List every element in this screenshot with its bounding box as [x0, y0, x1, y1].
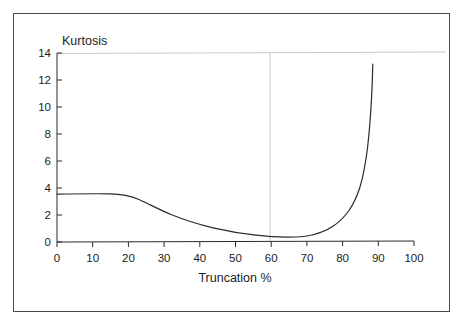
y-tick-label-0: 0 — [45, 236, 51, 248]
x-tick-label-30: 30 — [158, 252, 171, 264]
x-axis-line — [57, 241, 414, 242]
x-tick-label-20: 20 — [122, 252, 135, 264]
y-tick-label-10: 10 — [38, 101, 51, 113]
x-tick-label-80: 80 — [336, 252, 349, 264]
chart-plot: 14 12 10 8 6 4 2 0 0 10 20 30 40 50 60 7… — [0, 0, 464, 326]
x-tick-label-70: 70 — [301, 252, 314, 264]
y-axis-title: Kurtosis — [62, 34, 107, 48]
x-tick-label-90: 90 — [372, 252, 385, 264]
x-tick-label-60: 60 — [265, 252, 278, 264]
x-axis-title: Truncation % — [198, 271, 271, 285]
y-tick-label-2: 2 — [45, 209, 51, 221]
figure-container: 14 12 10 8 6 4 2 0 0 10 20 30 40 50 60 7… — [0, 0, 464, 326]
y-tick-label-6: 6 — [45, 155, 51, 167]
x-tick-label-100: 100 — [404, 252, 423, 264]
y-tick-label-4: 4 — [45, 182, 52, 194]
kurtosis-curve — [57, 64, 373, 237]
x-tick-label-0: 0 — [54, 252, 60, 264]
x-tick-label-50: 50 — [229, 252, 242, 264]
y-tick-label-8: 8 — [45, 128, 51, 140]
top-rule-line — [57, 52, 446, 54]
x-tick-label-10: 10 — [86, 252, 99, 264]
x-tick-label-40: 40 — [193, 252, 206, 264]
y-tick-marks — [57, 53, 62, 242]
y-tick-label-12: 12 — [38, 74, 51, 86]
y-tick-label-14: 14 — [38, 47, 51, 59]
